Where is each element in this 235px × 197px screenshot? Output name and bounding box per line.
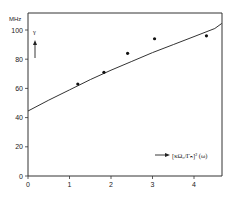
data-points bbox=[76, 34, 208, 85]
data-point bbox=[102, 71, 105, 74]
y-axis-symbol: γ bbox=[32, 28, 36, 35]
data-point bbox=[205, 34, 208, 37]
chart: 020406080100 01234 MHz γ [κΩ₀/Γₙ]² (ω) bbox=[0, 0, 235, 197]
x-tick-label: 2 bbox=[109, 181, 113, 188]
data-point bbox=[126, 52, 129, 55]
y-arrow-icon bbox=[33, 40, 37, 58]
fit-curve bbox=[28, 23, 222, 111]
x-tick-label: 0 bbox=[26, 181, 30, 188]
y-unit-label: MHz bbox=[9, 16, 21, 22]
y-tick-label: 0 bbox=[19, 173, 23, 180]
y-tick-label: 40 bbox=[15, 114, 23, 121]
y-ticks: 020406080100 bbox=[11, 27, 28, 180]
y-tick-label: 60 bbox=[15, 85, 23, 92]
x-tick-label: 4 bbox=[192, 181, 196, 188]
y-tick-label: 20 bbox=[15, 143, 23, 150]
x-axis-label: [κΩ₀/Γₙ]² (ω) bbox=[172, 152, 207, 160]
y-tick-label: 80 bbox=[15, 56, 23, 63]
x-tick-label: 3 bbox=[151, 181, 155, 188]
data-point bbox=[153, 37, 156, 40]
x-arrow-icon bbox=[155, 153, 170, 157]
x-tick-label: 1 bbox=[68, 181, 72, 188]
x-ticks: 01234 bbox=[26, 176, 196, 188]
data-point bbox=[76, 82, 79, 85]
y-tick-label: 100 bbox=[11, 27, 23, 34]
